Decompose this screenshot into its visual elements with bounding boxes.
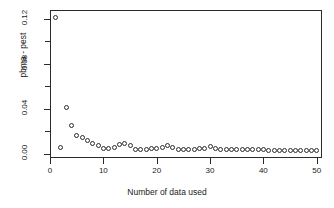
data-point bbox=[133, 147, 138, 152]
x-axis-tick-label: 10 bbox=[88, 166, 118, 175]
y-axis-tick-label: 0.12 bbox=[20, 3, 29, 31]
data-point bbox=[250, 147, 255, 152]
data-point bbox=[240, 147, 245, 152]
x-axis-tick-label: 40 bbox=[248, 166, 278, 175]
data-point bbox=[229, 147, 234, 152]
x-axis-tick-label: 20 bbox=[142, 166, 172, 175]
data-point bbox=[298, 148, 303, 153]
data-point bbox=[101, 146, 106, 151]
data-point bbox=[117, 142, 122, 147]
x-axis-tick-label: 0 bbox=[35, 166, 65, 175]
data-point bbox=[266, 148, 271, 153]
data-point bbox=[256, 147, 261, 152]
y-axis-tick-label: 0.08 bbox=[20, 48, 29, 76]
data-point bbox=[197, 146, 202, 151]
data-point bbox=[288, 148, 293, 153]
data-point bbox=[192, 147, 197, 152]
data-point bbox=[218, 147, 223, 152]
data-point bbox=[90, 141, 95, 146]
data-point bbox=[160, 145, 165, 150]
data-point bbox=[272, 148, 277, 153]
data-point bbox=[149, 146, 154, 151]
data-point bbox=[144, 147, 149, 152]
data-point bbox=[208, 144, 213, 149]
data-point bbox=[314, 148, 319, 153]
x-axis-tick bbox=[263, 158, 264, 164]
data-point bbox=[106, 146, 111, 151]
data-point bbox=[138, 147, 143, 152]
data-point bbox=[165, 143, 170, 148]
data-point bbox=[186, 147, 191, 152]
data-point bbox=[245, 147, 250, 152]
data-point bbox=[309, 148, 314, 153]
data-point bbox=[181, 147, 186, 152]
data-point bbox=[282, 148, 287, 153]
x-axis-tick-label: 30 bbox=[195, 166, 225, 175]
data-point bbox=[74, 133, 79, 138]
data-point bbox=[202, 146, 207, 151]
x-axis-tick bbox=[317, 158, 318, 164]
x-axis-tick bbox=[50, 158, 51, 164]
x-axis-title: Number of data used bbox=[0, 187, 334, 197]
x-axis-tick-label: 50 bbox=[302, 166, 332, 175]
y-axis-tick-label: 0.04 bbox=[20, 93, 29, 121]
data-point bbox=[96, 143, 101, 148]
scatter-plot: pbma - pest 0.000.040.080.12 01020304050… bbox=[0, 0, 334, 208]
data-point bbox=[80, 135, 85, 140]
data-point bbox=[128, 143, 133, 148]
data-point bbox=[224, 147, 229, 152]
data-point bbox=[53, 15, 58, 20]
data-point bbox=[170, 145, 175, 150]
data-point bbox=[122, 141, 127, 146]
data-point bbox=[69, 123, 74, 128]
data-point bbox=[213, 146, 218, 151]
data-point bbox=[154, 146, 159, 151]
data-point bbox=[64, 105, 69, 110]
plot-panel bbox=[50, 10, 322, 158]
data-point bbox=[112, 145, 117, 150]
x-axis-tick bbox=[103, 158, 104, 164]
data-point bbox=[277, 148, 282, 153]
data-point bbox=[304, 148, 309, 153]
x-axis-tick bbox=[157, 158, 158, 164]
data-point bbox=[58, 145, 63, 150]
data-point bbox=[234, 147, 239, 152]
y-axis-tick-label: 0.00 bbox=[20, 138, 29, 166]
data-point bbox=[176, 147, 181, 152]
data-point bbox=[293, 148, 298, 153]
data-point bbox=[85, 138, 90, 143]
x-axis-tick bbox=[210, 158, 211, 164]
data-point bbox=[261, 147, 266, 152]
